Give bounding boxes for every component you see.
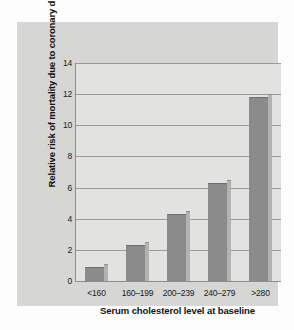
bars-group: <160160–199200–239240–279>280 xyxy=(76,63,281,281)
plot-area: 02468101214 <160160–199200–239240–279>28… xyxy=(75,63,281,282)
x-axis-tick-label: 200–239 xyxy=(163,288,195,298)
x-axis-tick-label: <160 xyxy=(87,288,105,298)
x-axis-tick-label: 160–199 xyxy=(122,288,154,298)
bar[interactable] xyxy=(85,267,105,281)
y-axis-tick-label: 0 xyxy=(67,276,72,286)
bar-slot: >280 xyxy=(240,63,281,281)
y-axis-tick-label: 12 xyxy=(63,89,72,99)
bar-side-shade xyxy=(268,94,272,281)
x-axis-tick-label: 240–279 xyxy=(204,288,236,298)
x-axis-title: Serum cholesterol level at baseline xyxy=(75,305,280,316)
x-axis-tick-label: >280 xyxy=(251,288,269,298)
bar[interactable] xyxy=(167,214,187,281)
y-axis-tick-label: 10 xyxy=(63,120,72,130)
bar-side-shade xyxy=(145,242,149,281)
bar-side-shade xyxy=(227,180,231,281)
bar-slot: 160–199 xyxy=(117,63,158,281)
bar-slot: 200–239 xyxy=(158,63,199,281)
bar-side-shade xyxy=(186,211,190,281)
y-axis-tick-label: 4 xyxy=(67,214,72,224)
chart-panel: 02468101214 <160160–199200–239240–279>28… xyxy=(17,22,278,306)
bar[interactable] xyxy=(126,245,146,281)
bar[interactable] xyxy=(208,183,228,281)
y-axis-tick-label: 2 xyxy=(67,245,72,255)
figure-canvas: 02468101214 <160160–199200–239240–279>28… xyxy=(0,0,294,330)
bar-slot: <160 xyxy=(76,63,117,281)
y-axis-tick-label: 6 xyxy=(67,183,72,193)
y-axis-tick-label: 8 xyxy=(67,151,72,161)
bar-slot: 240–279 xyxy=(199,63,240,281)
y-axis-title: Relative risk of mortality due to corona… xyxy=(45,0,59,77)
bar-side-shade xyxy=(104,264,108,281)
bar[interactable] xyxy=(249,97,269,281)
y-axis-tick-label: 14 xyxy=(63,58,72,68)
